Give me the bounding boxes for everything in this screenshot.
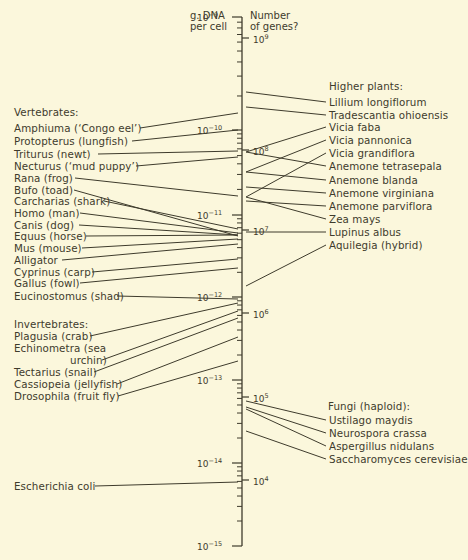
organism-label: Protopterus (lungfish)	[14, 135, 128, 147]
axis-label-dna: 10−11	[197, 208, 222, 221]
axis-label-genes: 107	[253, 224, 269, 237]
axis-label-genes: 109	[253, 32, 269, 45]
organism-label: Equus (horse)	[14, 230, 87, 242]
organism-label: Echinometra (sea	[14, 342, 106, 354]
organism-label: Eucinostomus (shad)	[14, 290, 124, 302]
organism-label: Neurospora crassa	[329, 427, 427, 439]
organism-label: Ustilago maydis	[329, 414, 413, 426]
organism-label: Triturus (newt)	[14, 148, 91, 160]
axis-label-genes: 106	[253, 307, 269, 320]
axis-label-dna: 10−14	[197, 456, 222, 469]
organism-label: Lupinus albus	[329, 226, 401, 238]
organism-label: Tectarius (snail)	[14, 366, 97, 378]
organism-label: Tradescantia ohioensis	[329, 109, 448, 121]
organism-label: Anemone tetrasepala	[329, 160, 442, 172]
axis-label-dna: 10−12	[197, 290, 222, 303]
organism-label: Alligator	[14, 254, 58, 266]
organism-label: Saccharomyces cerevisiae	[329, 453, 468, 465]
organism-label: Zea mays	[329, 213, 381, 225]
organism-label: Vicia faba	[329, 121, 381, 133]
organism-label: Gallus (fowl)	[14, 277, 80, 289]
organism-label: Necturus (‘mud puppy’)	[14, 160, 139, 172]
organism-label: Cassiopeia (jellyfish)	[14, 378, 122, 390]
organism-label: Vicia grandiflora	[329, 147, 415, 159]
axis-label-dna: 10−15	[197, 539, 222, 552]
organism-label: Rana (frog)	[14, 172, 73, 184]
axis-label-dna: 10−9	[197, 10, 218, 23]
organism-label: urchin)	[70, 354, 107, 366]
organism-label: Anemone virginiana	[329, 187, 434, 199]
organism-label: Carcharias (shark)	[14, 195, 110, 207]
organism-label: Homo (man)	[14, 207, 80, 219]
organism-label: Escherichia coli	[14, 480, 95, 492]
organism-label: Mus (mouse)	[14, 242, 82, 254]
axis-label-genes: 105	[253, 391, 269, 404]
organism-label: Anemone blanda	[329, 174, 418, 186]
organism-label: Aquilegia (hybrid)	[329, 239, 423, 251]
axis-label-dna: 10−13	[197, 373, 222, 386]
organism-label: Drosophila (fruit fly)	[14, 390, 120, 402]
organism-label: Vicia pannonica	[329, 134, 412, 146]
organism-label: Anemone parviflora	[329, 200, 433, 212]
axis-label-genes: 108	[253, 144, 269, 157]
axis-label-genes: 104	[253, 474, 269, 487]
organism-label: Aspergillus nidulans	[329, 440, 434, 452]
organism-label: Plagusia (crab)	[14, 330, 93, 342]
organism-label: Amphiuma (‘Congo eel’)	[14, 122, 142, 134]
axis-label-dna: 10−10	[197, 123, 222, 136]
organism-label: Lillium longiflorum	[329, 96, 427, 108]
